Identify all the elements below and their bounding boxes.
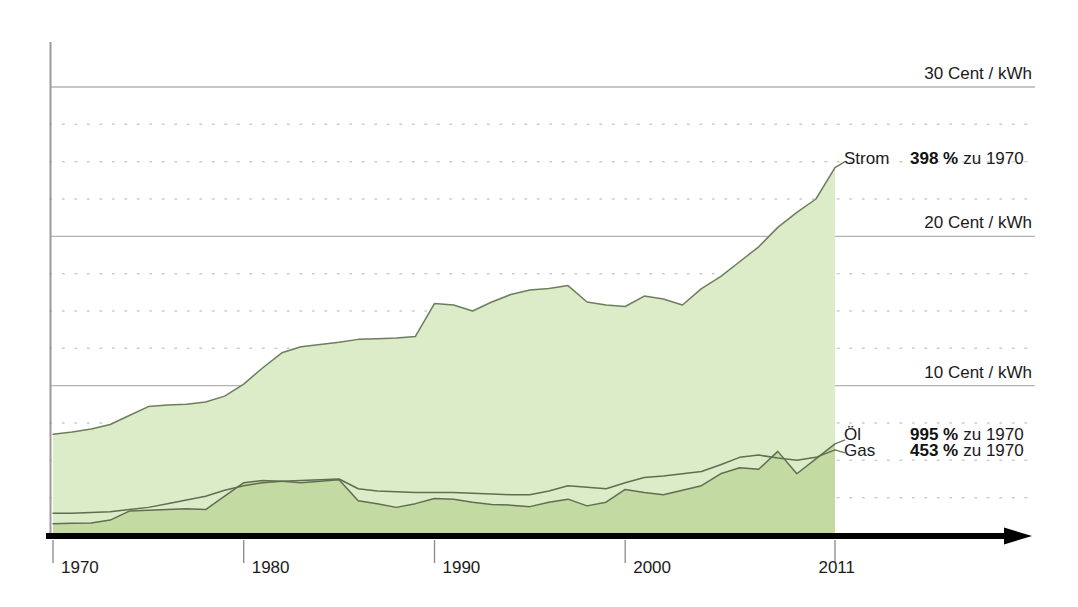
- x-tick-label: 1990: [443, 558, 481, 577]
- y-tick-label: 20 Cent / kWh: [924, 213, 1032, 232]
- x-tick-label: 2011: [818, 558, 855, 577]
- x-tick-label: 2000: [633, 558, 671, 577]
- legend-series-name: Strom: [844, 149, 889, 168]
- x-axis-tick-labels: 19701980199020002011: [61, 558, 855, 577]
- x-tick-label: 1970: [61, 558, 99, 577]
- chart-legend: Strom398 %zu 1970Öl995 %zu 1970Gas453 %z…: [844, 149, 1024, 460]
- legend-series-value: 453 %zu 1970: [910, 441, 1024, 460]
- legend-series-name: Gas: [844, 441, 875, 460]
- chart-canvas: 19701980199020002011 10 Cent / kWh20 Cen…: [0, 0, 1078, 607]
- x-tick-label: 1980: [252, 558, 290, 577]
- y-tick-label: 30 Cent / kWh: [924, 64, 1032, 83]
- legend-item-gas: Gas453 %zu 1970: [844, 441, 1024, 460]
- energy-price-chart: 19701980199020002011 10 Cent / kWh20 Cen…: [0, 0, 1078, 607]
- legend-item-strom: Strom398 %zu 1970: [844, 149, 1024, 168]
- series-areas: [53, 168, 835, 535]
- y-axis-tick-labels: 10 Cent / kWh20 Cent / kWh30 Cent / kWh: [924, 64, 1032, 382]
- y-tick-label: 10 Cent / kWh: [924, 363, 1032, 382]
- legend-series-value: 398 %zu 1970: [910, 149, 1024, 168]
